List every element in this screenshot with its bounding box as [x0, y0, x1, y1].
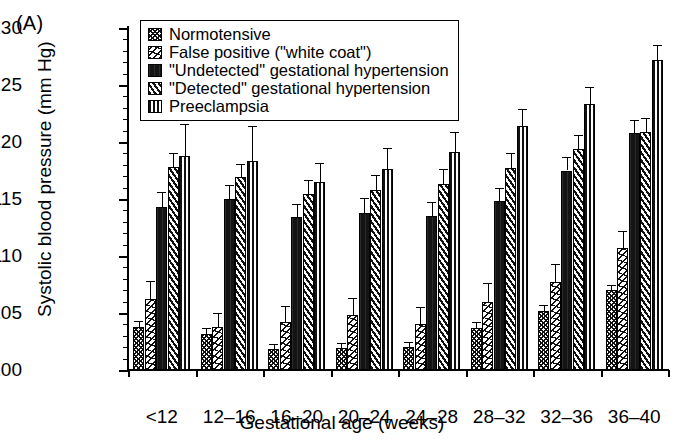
y-axis-tick-label: 125	[0, 74, 22, 96]
error-bar	[252, 126, 253, 161]
legend-item: "Detected" gestational hypertension	[148, 79, 449, 97]
legend-swatch-icon	[148, 64, 162, 77]
y-axis-minor-tick	[123, 336, 128, 337]
bar	[573, 149, 584, 370]
bar	[505, 168, 516, 370]
bar	[268, 349, 279, 370]
error-bar-cap	[248, 126, 257, 127]
error-bar-cap	[585, 87, 594, 88]
x-axis-tick-label: 16–20	[270, 406, 323, 428]
bar	[359, 213, 370, 370]
legend-label: "Undetected" gestational hypertension	[169, 62, 449, 79]
legend-swatch-icon	[148, 82, 162, 95]
bar	[482, 302, 493, 370]
error-bar-cap	[483, 283, 492, 284]
error-bar-cap	[169, 153, 178, 154]
error-bar-cap	[641, 118, 650, 119]
y-axis-minor-tick	[123, 131, 128, 132]
y-axis-minor-tick	[123, 165, 128, 166]
error-bar-cap	[236, 164, 245, 165]
error-bar	[567, 157, 568, 171]
x-axis-tick	[601, 370, 603, 377]
y-axis-title: Systolic blood pressure (mm Hg)	[34, 57, 56, 317]
bar	[347, 315, 358, 370]
error-bar	[162, 192, 163, 207]
bar	[415, 324, 426, 370]
error-bar-cap	[180, 124, 189, 125]
error-bar	[578, 135, 579, 149]
bar	[538, 311, 549, 370]
bar	[336, 348, 347, 370]
bar	[584, 104, 595, 370]
error-bar-cap	[281, 306, 290, 307]
y-axis-major-tick	[119, 199, 128, 201]
error-bar	[376, 175, 377, 190]
y-axis-minor-tick	[123, 210, 128, 211]
legend-item: Preeclampsia	[148, 97, 449, 115]
error-bar	[657, 45, 658, 60]
legend: NormotensiveFalse positive ("white coat"…	[140, 20, 459, 121]
bar	[224, 199, 235, 370]
error-bar-cap	[630, 120, 639, 121]
error-bar-cap	[269, 344, 278, 345]
bar	[303, 194, 314, 370]
x-axis-tick	[196, 370, 198, 377]
error-bar	[511, 153, 512, 168]
bar	[403, 347, 414, 370]
bar	[517, 126, 528, 370]
error-bar-cap	[506, 153, 515, 154]
x-axis-tick-label: 36–40	[608, 406, 661, 428]
y-axis-minor-tick	[123, 39, 128, 40]
error-bar	[320, 163, 321, 182]
error-bar-cap	[146, 281, 155, 282]
x-axis-tick	[466, 370, 468, 377]
error-bar-cap	[360, 198, 369, 199]
bar	[179, 156, 190, 370]
x-axis-tick	[128, 370, 130, 377]
error-bar	[297, 204, 298, 218]
error-bar	[443, 169, 444, 184]
y-axis-minor-tick	[123, 188, 128, 189]
error-bar	[420, 307, 421, 324]
bar	[606, 290, 617, 370]
y-axis-major-tick	[119, 370, 128, 372]
y-axis-minor-tick	[123, 359, 128, 360]
bar	[370, 190, 381, 370]
error-bar-cap	[518, 109, 527, 110]
error-bar	[150, 281, 151, 299]
bar	[156, 207, 167, 370]
y-axis-minor-tick	[123, 324, 128, 325]
error-bar	[229, 185, 230, 199]
bar	[617, 248, 628, 370]
legend-swatch-icon	[148, 100, 162, 113]
error-bar-cap	[427, 202, 436, 203]
legend-label: Normotensive	[169, 26, 271, 43]
y-axis-minor-tick	[123, 62, 128, 63]
bar	[471, 328, 482, 370]
error-bar	[432, 202, 433, 216]
error-bar	[555, 264, 556, 282]
y-axis-major-tick	[119, 28, 128, 30]
error-bar-cap	[134, 321, 143, 322]
y-axis-minor-tick	[123, 222, 128, 223]
error-bar-cap	[371, 175, 380, 176]
y-axis-minor-tick	[123, 74, 128, 75]
error-bar	[623, 231, 624, 248]
y-axis-minor-tick	[123, 176, 128, 177]
bar	[235, 177, 246, 370]
bar	[494, 201, 505, 370]
error-bar-cap	[213, 313, 222, 314]
bar	[247, 161, 258, 370]
bar	[438, 184, 449, 370]
bar	[280, 322, 291, 370]
legend-swatch-icon	[148, 46, 162, 59]
error-bar-cap	[450, 132, 459, 133]
x-axis-tick	[331, 370, 333, 377]
error-bar-cap	[225, 185, 234, 186]
error-bar	[185, 124, 186, 156]
y-axis-minor-tick	[123, 302, 128, 303]
y-axis-tick-label: 130	[0, 17, 22, 39]
x-axis-tick	[533, 370, 535, 377]
error-bar-cap	[348, 298, 357, 299]
error-bar	[218, 313, 219, 327]
